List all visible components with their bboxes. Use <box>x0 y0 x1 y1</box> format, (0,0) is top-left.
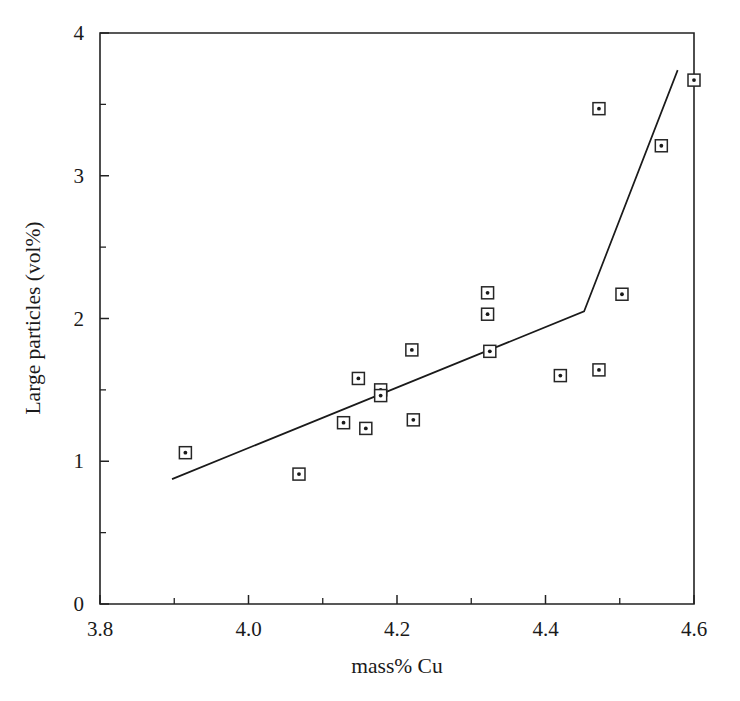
data-point-marker <box>593 103 605 115</box>
y-tick-label: 4 <box>74 21 85 45</box>
x-tick-label: 4.4 <box>532 617 559 641</box>
marker-center-dot <box>364 427 368 431</box>
y-tick-label: 2 <box>74 307 85 331</box>
scatter-plot: 012343.84.04.24.44.6 mass% Cu Large part… <box>0 0 740 701</box>
marker-center-dot <box>558 374 562 378</box>
data-point-marker <box>655 140 667 152</box>
x-tick-label: 4.0 <box>235 617 261 641</box>
marker-center-dot <box>486 291 490 295</box>
data-point-marker <box>406 344 418 356</box>
marker-center-dot <box>692 78 696 82</box>
x-tick-label: 4.6 <box>681 617 707 641</box>
x-tick-label: 4.2 <box>384 617 410 641</box>
axis-ticks <box>100 33 694 604</box>
marker-center-dot <box>411 418 415 422</box>
marker-center-dot <box>486 312 490 316</box>
data-point-marker <box>616 288 628 300</box>
axes <box>100 33 694 604</box>
plot-frame <box>100 33 694 604</box>
data-point-marker <box>179 447 191 459</box>
data-point-marker <box>360 422 372 434</box>
marker-center-dot <box>342 421 346 425</box>
data-point-marker <box>482 287 494 299</box>
y-tick-label: 1 <box>74 449 85 473</box>
marker-center-dot <box>410 348 414 352</box>
x-axis-title: mass% Cu <box>351 654 443 678</box>
tick-labels: 012343.84.04.24.44.6 <box>74 21 708 641</box>
y-tick-label: 3 <box>74 164 85 188</box>
marker-center-dot <box>597 368 601 372</box>
regression-line <box>172 70 678 479</box>
data-point-marker <box>593 364 605 376</box>
data-point-marker <box>484 345 496 357</box>
marker-center-dot <box>297 472 301 476</box>
data-point-marker <box>407 414 419 426</box>
fit-line <box>172 70 678 479</box>
marker-center-dot <box>379 394 383 398</box>
data-point-marker <box>482 308 494 320</box>
y-tick-label: 0 <box>74 592 85 616</box>
x-tick-label: 3.8 <box>87 617 113 641</box>
marker-center-dot <box>659 144 663 148</box>
y-axis-title: Large particles (vol%) <box>21 221 45 414</box>
data-point-marker <box>554 370 566 382</box>
data-point-marker <box>338 417 350 429</box>
marker-center-dot <box>620 292 624 296</box>
marker-center-dot <box>183 451 187 455</box>
data-point-marker <box>293 468 305 480</box>
marker-center-dot <box>356 377 360 381</box>
data-point-marker <box>352 372 364 384</box>
data-point-marker <box>688 74 700 86</box>
data-points <box>179 74 700 480</box>
data-point-marker <box>375 390 387 402</box>
chart-figure: 012343.84.04.24.44.6 mass% Cu Large part… <box>0 0 740 701</box>
marker-center-dot <box>488 349 492 353</box>
marker-center-dot <box>597 107 601 111</box>
